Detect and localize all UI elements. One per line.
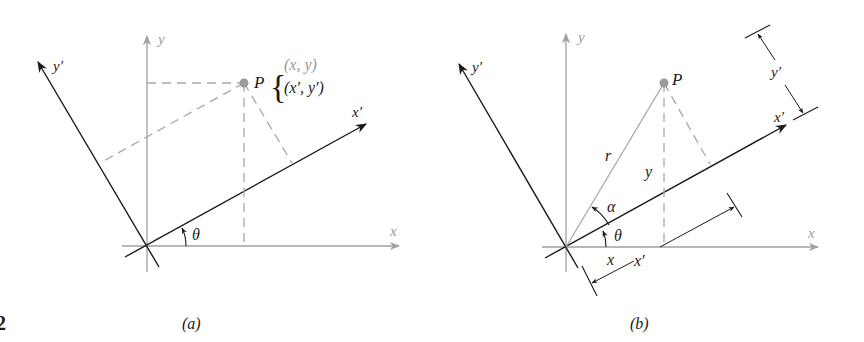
projection-lines bbox=[664, 83, 710, 247]
y-prime-dim-arrow-down bbox=[785, 85, 803, 113]
x-distance-label: x bbox=[606, 251, 614, 268]
panel-b-caption: (b) bbox=[630, 315, 649, 333]
alpha-label: α bbox=[607, 198, 616, 215]
coords-rotated-label: (x′, y′) bbox=[284, 79, 324, 97]
y-distance-label: y bbox=[643, 163, 653, 181]
y-prime-dim-arrow-up bbox=[758, 34, 775, 60]
point-p-label: P bbox=[253, 73, 264, 92]
panel-a-caption: (a) bbox=[182, 315, 201, 333]
theta-arc-icon bbox=[603, 231, 606, 247]
point-p-icon bbox=[660, 79, 669, 88]
x-axis-label: x bbox=[807, 225, 815, 241]
y-prime-distance-label: y′ bbox=[769, 64, 782, 80]
point-p-label: P bbox=[671, 70, 682, 89]
theta-label: θ bbox=[614, 227, 622, 244]
panel-a: y x x′ y′ θ P { (x, y) (x′, y′) (a) bbox=[38, 31, 399, 333]
x-prime-dim-arrow-right bbox=[660, 207, 734, 247]
theta-label: θ bbox=[192, 226, 200, 243]
figure-number: 2 bbox=[0, 312, 6, 334]
x-prime-axis-icon bbox=[545, 125, 786, 258]
projection-lines bbox=[100, 83, 292, 246]
rotation-of-axes-figure: 2 y x x′ y′ θ P { (x, y) (x′, y′) ( bbox=[0, 0, 864, 342]
x-prime-axis-label: x′ bbox=[351, 104, 363, 120]
y-axis-label: y bbox=[576, 29, 585, 45]
x-prime-axis-label: x′ bbox=[773, 109, 785, 125]
x-prime-axis-icon bbox=[125, 124, 366, 257]
y-prime-dim-tick-bottom bbox=[793, 107, 818, 120]
y-prime-axis-icon bbox=[38, 62, 159, 267]
y-prime-axis-label: y′ bbox=[470, 59, 483, 75]
panel-b: y x x′ y′ θ α P r y x x′ y′ (b) bbox=[459, 25, 818, 333]
x-axis-label: x bbox=[389, 223, 397, 239]
y-prime-dim-tick-top bbox=[745, 25, 770, 38]
radius-label: r bbox=[605, 147, 612, 164]
x-prime-distance-label: x′ bbox=[633, 252, 645, 269]
coords-original-label: (x, y) bbox=[284, 56, 317, 74]
y-prime-axis-label: y′ bbox=[51, 58, 64, 74]
theta-arc-icon bbox=[182, 228, 186, 246]
y-prime-axis-icon bbox=[459, 64, 578, 268]
y-axis-label: y bbox=[156, 31, 165, 47]
point-p-icon bbox=[240, 79, 249, 88]
x-prime-dim-tick-end bbox=[727, 193, 742, 217]
